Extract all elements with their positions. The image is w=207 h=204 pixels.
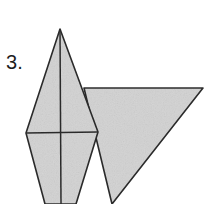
figure-canvas: 3. [0,0,207,204]
shape-kite [26,29,98,204]
kite-fill [26,29,98,204]
kite-horizontal-diagonal-line [26,132,98,133]
shape-right-triangle [84,88,203,204]
right-triangle-fill [84,88,203,204]
figure-item-label: 3. [6,51,23,73]
geometry-figure [0,0,207,204]
kite-vertical-axis-line [60,29,61,204]
